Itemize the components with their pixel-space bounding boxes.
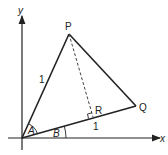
side-OQ [22,106,136,138]
side-OP-length: 1 [39,74,45,85]
x-axis-label: x [159,133,166,144]
triangle-diagram: y x P Q R 1 1 A B [0,0,168,155]
y-axis-label: y [17,5,24,16]
point-R-label: R [95,105,102,116]
angle-A-label: A [27,125,35,136]
side-OQ-length: 1 [93,121,99,132]
side-OP [22,34,69,138]
angle-arc-B [64,126,66,138]
point-P-label: P [65,21,72,32]
angle-B-label: B [53,128,60,139]
diagram-canvas: y x P Q R 1 1 A B [0,0,168,155]
point-Q-label: Q [139,102,147,113]
right-angle-marker [88,113,93,119]
